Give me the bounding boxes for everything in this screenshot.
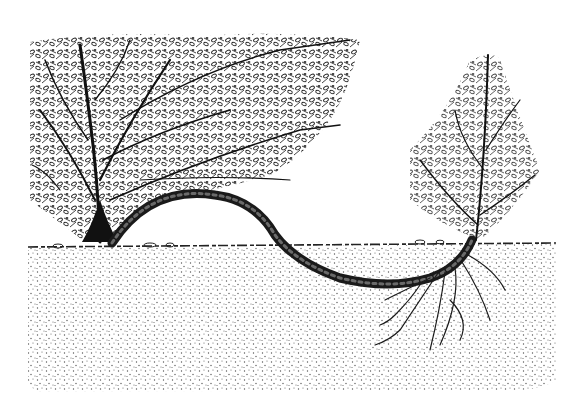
layering-illustration [0,0,568,402]
parent-shrub [30,34,360,242]
new-shoot [410,55,540,240]
stippled-soil [28,244,556,392]
